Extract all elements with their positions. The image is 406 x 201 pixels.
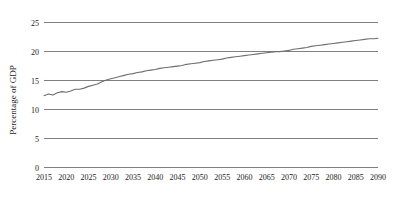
x-tick-label: 2050 <box>192 173 208 182</box>
x-tick-label: 2045 <box>170 173 186 182</box>
x-tick-label: 2040 <box>147 173 163 182</box>
x-tick-label: 2075 <box>303 173 319 182</box>
x-tick-label: 2065 <box>259 173 275 182</box>
x-tick-label: 2085 <box>348 173 364 182</box>
x-tick-label: 2020 <box>58 173 74 182</box>
series-line-0 <box>44 38 378 95</box>
x-axis-tick-labels: 2015202020252030203520402045205020552060… <box>36 173 386 182</box>
line-chart: 0510152025 20152020202520302035204020452… <box>0 0 406 201</box>
x-tick-label: 2090 <box>370 173 386 182</box>
y-tick-label: 25 <box>31 19 39 28</box>
x-tick-label: 2070 <box>281 173 297 182</box>
y-tick-label: 5 <box>35 135 39 144</box>
y-tick-label: 15 <box>31 77 39 86</box>
y-tick-label: 20 <box>31 48 39 57</box>
x-tick-label: 2035 <box>125 173 141 182</box>
chart-container: 0510152025 20152020202520302035204020452… <box>0 0 406 201</box>
x-tick-label: 2080 <box>325 173 341 182</box>
y-axis-tick-labels: 0510152025 <box>31 19 39 173</box>
x-tick-label: 2030 <box>103 173 119 182</box>
data-series <box>44 38 378 95</box>
x-tick-label: 2055 <box>214 173 230 182</box>
y-tick-label: 10 <box>31 106 39 115</box>
x-tick-label: 2015 <box>36 173 52 182</box>
x-tick-label: 2025 <box>81 173 97 182</box>
y-axis-title-text: Percentage of GDP <box>8 65 18 134</box>
x-tick-label: 2060 <box>236 173 252 182</box>
y-axis-title: Percentage of GDP <box>8 65 18 134</box>
y-tick-label: 0 <box>35 164 39 173</box>
